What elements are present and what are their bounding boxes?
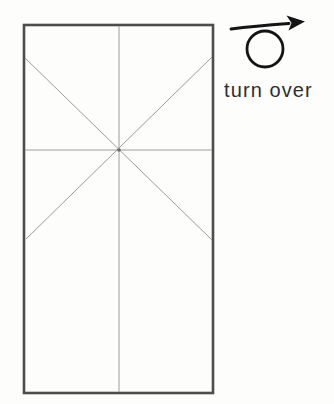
turn-over-loop-icon (247, 31, 283, 67)
turn-over-arrow-shaft (231, 24, 289, 30)
turn-over-label: turn over (224, 79, 330, 102)
turn-over-symbol (0, 0, 334, 404)
origami-step-diagram: turn over (0, 0, 334, 404)
